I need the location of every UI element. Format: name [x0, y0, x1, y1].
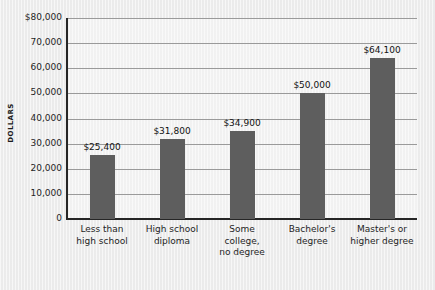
bar-chart-figure: DOLLARS $80,00070,00060,00050,00040,0003… [0, 0, 435, 290]
category-label-line: degree [272, 236, 352, 248]
category-label: Master's orhigher degree [342, 224, 422, 247]
gridline [67, 93, 417, 94]
y-axis-tick-label: $80,000 [0, 12, 62, 22]
category-label-line: High school [132, 224, 212, 236]
bar [230, 131, 255, 219]
bar-value-label: $50,000 [277, 80, 347, 90]
y-axis-tick-label: 30,000 [0, 138, 62, 148]
category-label-line: Bachelor's [272, 224, 352, 236]
bar-value-label: $25,400 [67, 142, 137, 152]
gridline [67, 68, 417, 69]
category-label-line: college, [202, 236, 282, 248]
category-label: Bachelor'sdegree [272, 224, 352, 247]
gridline [67, 18, 417, 19]
category-label-line: high school [62, 236, 142, 248]
category-label: High schooldiploma [132, 224, 212, 247]
bar [160, 139, 185, 219]
bar [370, 58, 395, 219]
bar [300, 93, 325, 219]
bar-value-label: $64,100 [347, 45, 417, 55]
bar-value-label: $34,900 [207, 118, 277, 128]
bar-value-label: $31,800 [137, 126, 207, 136]
category-label-line: diploma [132, 236, 212, 248]
y-axis-tick-label: 10,000 [0, 188, 62, 198]
y-axis-tick-label: 0 [0, 213, 62, 223]
y-axis-tick-label: 20,000 [0, 163, 62, 173]
y-axis-tick-label: 60,000 [0, 62, 62, 72]
y-axis-tick-label: 40,000 [0, 113, 62, 123]
category-label-line: Master's or [342, 224, 422, 236]
category-label: Less thanhigh school [62, 224, 142, 247]
bar [90, 155, 115, 219]
category-label: Somecollege,no degree [202, 224, 282, 259]
y-axis-line [66, 18, 68, 219]
category-label-line: higher degree [342, 236, 422, 248]
category-label-line: Less than [62, 224, 142, 236]
category-label-line: no degree [202, 247, 282, 259]
y-axis-tick-label: 70,000 [0, 37, 62, 47]
y-axis-tick-label: 50,000 [0, 87, 62, 97]
category-label-line: Some [202, 224, 282, 236]
